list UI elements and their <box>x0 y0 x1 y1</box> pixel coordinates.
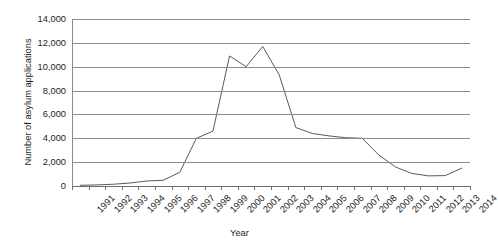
gridline-10000 <box>72 67 470 68</box>
x-axis-title: Year <box>0 228 479 238</box>
x-tick-mark <box>238 186 239 190</box>
x-tick-label-1991: 1991 <box>95 193 117 215</box>
gridline-4000 <box>72 138 470 139</box>
x-tick-mark <box>354 186 355 190</box>
y-tick-label-8000: 8,000 <box>43 86 66 96</box>
x-tick-label-1996: 1996 <box>178 193 200 215</box>
x-tick-label-2003: 2003 <box>294 193 316 215</box>
y-tick-label-10000: 10,000 <box>38 62 66 72</box>
x-tick-mark <box>453 186 454 190</box>
x-tick-label-2014: 2014 <box>477 193 498 215</box>
x-tick-label-2011: 2011 <box>427 193 448 214</box>
y-tick-label-2000: 2,000 <box>43 157 66 167</box>
x-tick-mark <box>254 186 255 190</box>
x-tick-mark <box>420 186 421 190</box>
x-tick-mark <box>138 186 139 190</box>
gridline-8000 <box>72 91 470 92</box>
y-tick-label-14000: 14,000 <box>38 14 66 24</box>
data-series-asylum-applications <box>72 19 470 186</box>
gridline-14000 <box>72 19 470 20</box>
x-tick-mark <box>155 186 156 190</box>
y-tick-label-6000: 6,000 <box>43 109 66 119</box>
x-tick-mark <box>437 186 438 190</box>
y-tick-label-4000: 4,000 <box>43 133 66 143</box>
y-tick-label-12000: 12,000 <box>38 38 66 48</box>
x-tick-mark <box>337 186 338 190</box>
x-tick-label-2001: 2001 <box>261 193 283 215</box>
y-axis-tick-labels: 02,0004,0006,0008,00010,00012,00014,000 <box>0 0 66 251</box>
x-tick-label-1994: 1994 <box>145 193 167 215</box>
x-tick-mark <box>172 186 173 190</box>
x-tick-mark <box>205 186 206 190</box>
gridline-2000 <box>72 162 470 163</box>
x-tick-mark <box>321 186 322 190</box>
x-tick-mark <box>288 186 289 190</box>
x-tick-mark <box>387 186 388 190</box>
x-tick-mark <box>188 186 189 190</box>
x-tick-mark <box>404 186 405 190</box>
x-tick-mark <box>271 186 272 190</box>
gridline-12000 <box>72 43 470 44</box>
x-tick-mark <box>72 186 73 190</box>
x-tick-mark <box>470 186 471 190</box>
x-tick-mark <box>371 186 372 190</box>
gridline-6000 <box>72 114 470 115</box>
y-tick-label-0: 0 <box>61 181 66 191</box>
x-tick-label-2006: 2006 <box>344 193 366 215</box>
x-tick-mark <box>122 186 123 190</box>
x-tick-mark <box>105 186 106 190</box>
x-tick-mark <box>89 186 90 190</box>
x-tick-label-1999: 1999 <box>228 193 250 215</box>
plot-area <box>72 19 470 186</box>
x-tick-label-2013: 2013 <box>460 193 482 215</box>
x-tick-label-2008: 2008 <box>377 193 399 215</box>
x-tick-mark <box>304 186 305 190</box>
x-tick-mark <box>221 186 222 190</box>
